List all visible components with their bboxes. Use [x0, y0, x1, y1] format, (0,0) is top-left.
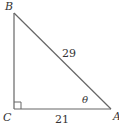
side-ba-hypotenuse [14, 13, 111, 109]
angle-theta-label: θ [82, 95, 88, 105]
right-angle-marker [14, 102, 21, 109]
base-length-label: 21 [55, 114, 69, 125]
hypotenuse-length-label: 29 [62, 48, 76, 59]
vertex-label-c: C [3, 112, 11, 123]
vertex-label-b: B [5, 1, 13, 12]
vertex-label-a: A [113, 111, 119, 122]
triangle-diagram [0, 0, 119, 128]
